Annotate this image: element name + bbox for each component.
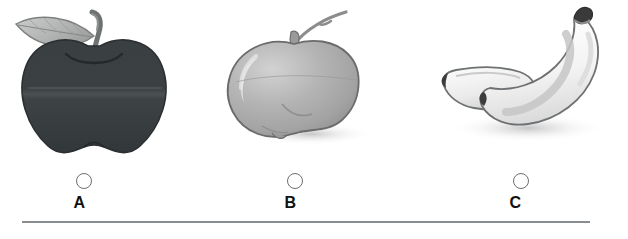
- banana-pair-icon: [416, 0, 625, 165]
- radio-button-a[interactable]: [76, 173, 92, 189]
- choice-option-c[interactable]: C: [416, 0, 625, 215]
- choice-label-a: A: [0, 193, 184, 213]
- choice-option-a[interactable]: A: [0, 0, 209, 215]
- image-choice-question: A: [0, 0, 628, 239]
- dark-apple-with-leaf-icon: [0, 0, 209, 165]
- radio-button-c[interactable]: [513, 173, 529, 189]
- choice-label-c: C: [411, 193, 620, 213]
- light-gray-apple-icon: [196, 0, 405, 165]
- radio-button-b[interactable]: [287, 173, 303, 189]
- choice-option-b[interactable]: B: [196, 0, 405, 215]
- choice-label-b: B: [186, 193, 395, 213]
- horizontal-divider: [22, 221, 590, 223]
